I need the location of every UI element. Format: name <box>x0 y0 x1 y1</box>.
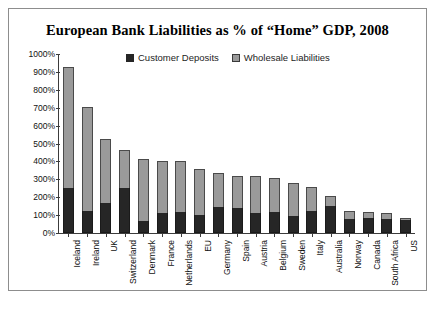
bar-stack[interactable] <box>250 176 261 233</box>
bar-segment-wholesale-liabilities <box>100 139 111 203</box>
bar-segment-customer-deposits <box>82 211 93 233</box>
bar-segment-wholesale-liabilities <box>213 173 224 207</box>
bar-stack[interactable] <box>288 183 299 233</box>
bar-segment-customer-deposits <box>269 212 280 233</box>
y-axis-tick-label: 300% <box>15 174 55 184</box>
bar-segment-wholesale-liabilities <box>288 183 299 216</box>
x-axis-tick-mark <box>125 233 126 237</box>
x-axis-tick-label: Canada <box>372 240 382 270</box>
bar-stack[interactable] <box>175 161 186 233</box>
y-axis-tick-label: 0% <box>15 228 55 238</box>
bar-segment-customer-deposits <box>344 219 355 233</box>
bar-segment-wholesale-liabilities <box>175 161 186 211</box>
x-axis-tick-mark <box>256 233 257 237</box>
x-axis-tick-label: South Africa <box>390 240 400 286</box>
bar-stack[interactable] <box>157 161 168 233</box>
bar-segment-customer-deposits <box>288 216 299 233</box>
x-axis-tick-mark <box>274 233 275 237</box>
x-axis-tick-mark <box>387 233 388 237</box>
y-axis-tick-label: 400% <box>15 156 55 166</box>
x-axis-tick-mark <box>68 233 69 237</box>
bar-stack[interactable] <box>138 159 149 233</box>
y-axis-tick-label: 1000% <box>15 49 55 59</box>
x-axis-tick-mark <box>106 233 107 237</box>
bar-stack[interactable] <box>306 187 317 233</box>
bar-stack[interactable] <box>194 169 205 233</box>
bar-stack[interactable] <box>363 212 374 233</box>
bar-stack[interactable] <box>82 107 93 233</box>
x-axis-tick-label: Switzerland <box>128 240 138 284</box>
x-axis-tick-mark <box>181 233 182 237</box>
bar-stack[interactable] <box>269 178 280 233</box>
x-axis-tick-label: EU <box>203 240 213 252</box>
bar-stack[interactable] <box>400 218 411 233</box>
x-axis-tick-label: Belgium <box>278 240 288 271</box>
bar-segment-wholesale-liabilities <box>157 161 168 214</box>
x-axis-tick-mark <box>143 233 144 237</box>
bar-segment-customer-deposits <box>119 188 130 233</box>
bar-segment-wholesale-liabilities <box>82 107 93 211</box>
x-axis-tick-label: Denmark <box>147 240 157 274</box>
bar-segment-customer-deposits <box>232 208 243 233</box>
x-axis-tick-label: US <box>409 240 419 252</box>
bar-series-group <box>59 54 415 233</box>
y-axis-tick-label: 700% <box>15 103 55 113</box>
bar-segment-wholesale-liabilities <box>194 169 205 215</box>
y-axis-tick-label: 500% <box>15 139 55 149</box>
bar-segment-customer-deposits <box>400 220 411 233</box>
bar-segment-wholesale-liabilities <box>138 159 149 222</box>
bar-segment-customer-deposits <box>194 215 205 233</box>
bar-stack[interactable] <box>100 139 111 233</box>
bar-segment-customer-deposits <box>213 207 224 233</box>
bar-segment-customer-deposits <box>175 212 186 233</box>
bar-segment-customer-deposits <box>363 218 374 233</box>
bar-segment-customer-deposits <box>157 213 168 233</box>
x-axis-tick-mark <box>349 233 350 237</box>
bar-segment-customer-deposits <box>306 211 317 233</box>
y-axis-tick-label: 200% <box>15 192 55 202</box>
x-axis-tick-label: Spain <box>241 240 251 262</box>
bar-segment-customer-deposits <box>325 206 336 233</box>
y-axis-labels: 0%100%200%300%400%500%600%700%800%900%10… <box>15 49 55 233</box>
x-axis-tick-mark <box>87 233 88 237</box>
bar-stack[interactable] <box>381 213 392 233</box>
x-axis-tick-label: Ireland <box>91 240 101 266</box>
bar-segment-wholesale-liabilities <box>232 176 243 208</box>
chart-figure: European Bank Liabilities as % of “Home”… <box>8 8 427 291</box>
x-axis-tick-label: Germany <box>222 240 232 275</box>
bar-segment-wholesale-liabilities <box>63 67 74 188</box>
bar-segment-customer-deposits <box>63 188 74 233</box>
y-axis-tick-label: 800% <box>15 85 55 95</box>
plot-area: 0%100%200%300%400%500%600%700%800%900%10… <box>9 9 426 290</box>
bar-stack[interactable] <box>213 173 224 233</box>
bar-segment-wholesale-liabilities <box>250 176 261 214</box>
bar-segment-customer-deposits <box>250 213 261 233</box>
bar-stack[interactable] <box>232 176 243 233</box>
x-axis-tick-label: Australia <box>334 240 344 273</box>
y-axis-tick-label: 600% <box>15 121 55 131</box>
x-axis-tick-label: UK <box>109 240 119 252</box>
x-axis-tick-label: Sweden <box>297 240 307 271</box>
x-axis-tick-mark <box>331 233 332 237</box>
bar-stack[interactable] <box>325 196 336 233</box>
bar-stack[interactable] <box>63 67 74 233</box>
x-axis-labels: IcelandIrelandUKSwitzerlandDenmarkFrance… <box>59 240 415 300</box>
bar-segment-wholesale-liabilities <box>269 178 280 211</box>
bar-segment-wholesale-liabilities <box>306 187 317 210</box>
x-axis-tick-mark <box>237 233 238 237</box>
x-axis-tick-label: France <box>166 240 176 266</box>
bar-segment-customer-deposits <box>100 203 111 233</box>
bar-stack[interactable] <box>344 211 355 233</box>
x-axis-tick-mark <box>293 233 294 237</box>
x-axis-tick-mark <box>162 233 163 237</box>
x-axis-tick-label: Iceland <box>72 240 82 267</box>
x-axis-tick-mark <box>200 233 201 237</box>
bar-segment-wholesale-liabilities <box>325 196 336 206</box>
y-axis-tick-label: 100% <box>15 210 55 220</box>
x-axis-tick-label: Norway <box>353 240 363 269</box>
x-axis-tick-mark <box>218 233 219 237</box>
bar-stack[interactable] <box>119 150 130 233</box>
x-axis-ticks <box>59 233 415 238</box>
x-axis-tick-label: Netherlands <box>184 240 194 286</box>
x-axis-tick-mark <box>312 233 313 237</box>
